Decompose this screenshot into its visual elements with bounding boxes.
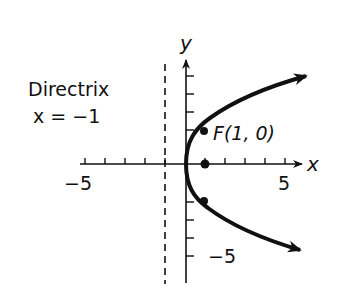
- x-axis-label: x: [306, 152, 319, 176]
- directrix-title: Directrix: [28, 78, 109, 100]
- parabola-diagram: Directrix x = −1 F(1, 0) x y −5 5 −5: [0, 0, 354, 296]
- curve-point-upper: [200, 127, 208, 135]
- y-tick-label-neg5: −5: [208, 245, 236, 267]
- parabola-upper-branch: [186, 76, 306, 164]
- curve-point-lower: [200, 197, 208, 205]
- directrix-equation: x = −1: [33, 105, 100, 127]
- x-axis: [80, 158, 302, 164]
- x-tick-label-5: 5: [278, 172, 290, 194]
- focus-point: [201, 160, 210, 169]
- y-axis-label: y: [179, 31, 193, 55]
- x-tick-label-neg5: −5: [64, 172, 92, 194]
- focus-label: F(1, 0): [213, 122, 275, 144]
